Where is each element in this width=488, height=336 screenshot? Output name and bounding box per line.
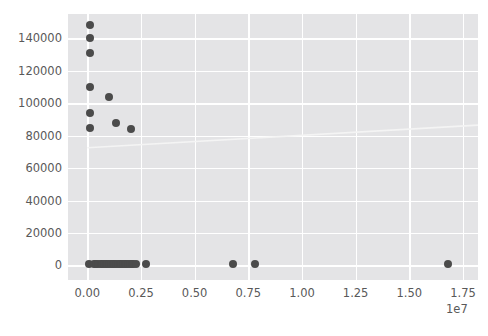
y-tick-label-1: 20000 bbox=[0, 226, 62, 240]
data-point bbox=[112, 119, 120, 127]
x-axis-offset-label: 1e7 bbox=[446, 302, 468, 316]
x-tick-label-6: 1.50 bbox=[396, 286, 422, 300]
y-tick-label-7: 140000 bbox=[0, 31, 62, 45]
x-tick-label-2: 0.50 bbox=[182, 286, 208, 300]
x-tick-label-5: 1.25 bbox=[343, 286, 369, 300]
y-tick-label-5: 100000 bbox=[0, 96, 62, 110]
y-tick-label-4: 80000 bbox=[0, 129, 62, 143]
y-tick-label-0: 0 bbox=[0, 258, 62, 272]
y-tick-label-3: 60000 bbox=[0, 161, 62, 175]
data-point bbox=[251, 260, 259, 268]
y-axis-tick-labels: 020000400006000080000100000120000140000 bbox=[0, 14, 62, 280]
data-point bbox=[105, 93, 113, 101]
x-tick-label-4: 1.00 bbox=[289, 286, 315, 300]
trendline bbox=[68, 14, 478, 280]
data-point bbox=[86, 124, 94, 132]
y-tick-label-2: 40000 bbox=[0, 194, 62, 208]
data-point bbox=[86, 21, 94, 29]
y-tick-label-6: 120000 bbox=[0, 64, 62, 78]
scatter-plot-figure: 020000400006000080000100000120000140000 … bbox=[0, 0, 488, 336]
data-point bbox=[132, 260, 140, 268]
x-tick-label-1: 0.25 bbox=[128, 286, 154, 300]
x-tick-label-3: 0.75 bbox=[236, 286, 262, 300]
x-tick-label-0: 0.00 bbox=[75, 286, 101, 300]
x-axis-tick-labels: 0.000.250.500.751.001.251.501.75 bbox=[68, 286, 478, 304]
data-point bbox=[86, 109, 94, 117]
data-point bbox=[444, 260, 452, 268]
plot-area bbox=[68, 14, 478, 280]
x-tick-label-7: 1.75 bbox=[450, 286, 476, 300]
